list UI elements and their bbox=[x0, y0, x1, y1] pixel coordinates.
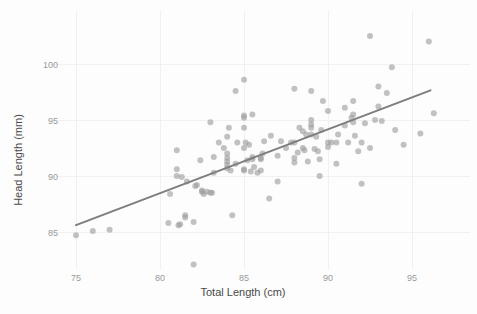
x-tick-label: 80 bbox=[155, 273, 165, 283]
x-axis-title: Total Length (cm) bbox=[201, 286, 286, 298]
data-point bbox=[228, 167, 234, 173]
plot-area: 7580859095 859095100 Total Length (cm) H… bbox=[0, 0, 477, 314]
data-point bbox=[367, 145, 373, 151]
data-point bbox=[179, 174, 185, 180]
data-point bbox=[194, 182, 200, 188]
data-point bbox=[320, 98, 326, 104]
data-point bbox=[315, 148, 321, 154]
data-point bbox=[207, 119, 213, 125]
y-tick-label: 95 bbox=[48, 116, 58, 126]
data-point bbox=[379, 118, 385, 124]
x-axis-tick-labels: 7580859095 bbox=[71, 273, 417, 283]
data-point bbox=[372, 117, 378, 123]
data-point bbox=[367, 33, 373, 39]
data-point bbox=[317, 156, 323, 162]
data-point bbox=[73, 232, 79, 238]
data-point bbox=[295, 149, 301, 155]
data-point bbox=[362, 120, 368, 126]
data-point bbox=[335, 132, 341, 138]
data-point bbox=[359, 139, 365, 145]
data-point bbox=[216, 139, 222, 145]
data-point bbox=[191, 219, 197, 225]
data-point bbox=[229, 212, 235, 218]
data-point bbox=[90, 228, 96, 234]
data-point bbox=[275, 179, 281, 185]
regression-line bbox=[76, 90, 430, 225]
data-point bbox=[258, 167, 264, 173]
data-point bbox=[266, 195, 272, 201]
data-point bbox=[261, 138, 267, 144]
data-point bbox=[342, 105, 348, 111]
data-point bbox=[182, 214, 188, 220]
data-point bbox=[191, 261, 197, 267]
data-point bbox=[221, 145, 227, 151]
y-tick-label: 100 bbox=[43, 60, 58, 70]
data-point bbox=[209, 190, 215, 196]
data-point bbox=[431, 110, 437, 116]
data-point bbox=[167, 191, 173, 197]
data-point bbox=[107, 227, 113, 233]
data-point bbox=[417, 130, 423, 136]
data-point bbox=[174, 147, 180, 153]
data-point bbox=[352, 133, 358, 139]
x-tick-label: 75 bbox=[71, 273, 81, 283]
data-point bbox=[211, 154, 217, 160]
data-point bbox=[317, 173, 323, 179]
x-tick-label: 90 bbox=[323, 273, 333, 283]
x-tick-label: 95 bbox=[407, 273, 417, 283]
data-point bbox=[305, 158, 311, 164]
data-point bbox=[350, 98, 356, 104]
data-point bbox=[258, 156, 264, 162]
data-point bbox=[401, 142, 407, 148]
data-point bbox=[426, 39, 432, 45]
data-point bbox=[384, 90, 390, 96]
scatter-chart: 7580859095 859095100 Total Length (cm) H… bbox=[0, 0, 477, 314]
y-tick-label: 90 bbox=[48, 172, 58, 182]
y-axis-title: Head Length (mm) bbox=[12, 114, 24, 206]
data-point bbox=[308, 88, 314, 94]
data-point bbox=[268, 133, 274, 139]
y-tick-label: 85 bbox=[48, 228, 58, 238]
data-point bbox=[233, 88, 239, 94]
data-point bbox=[249, 111, 255, 117]
data-point bbox=[174, 173, 180, 179]
data-point bbox=[177, 221, 183, 227]
data-point bbox=[226, 125, 232, 131]
data-point bbox=[234, 139, 240, 145]
y-axis-tick-labels: 859095100 bbox=[43, 60, 58, 238]
data-point bbox=[241, 115, 247, 121]
data-point bbox=[375, 83, 381, 89]
data-point bbox=[291, 86, 297, 92]
data-point bbox=[197, 157, 203, 163]
data-point bbox=[241, 125, 247, 131]
data-point bbox=[301, 147, 307, 153]
data-point bbox=[355, 148, 361, 154]
data-point bbox=[291, 160, 297, 166]
data-point bbox=[389, 64, 395, 70]
data-point bbox=[241, 145, 247, 151]
data-point bbox=[359, 181, 365, 187]
data-point bbox=[241, 167, 247, 173]
data-point bbox=[251, 164, 257, 170]
data-point bbox=[165, 220, 171, 226]
data-point bbox=[350, 111, 356, 117]
data-point bbox=[174, 166, 180, 172]
x-tick-label: 85 bbox=[239, 273, 249, 283]
data-point bbox=[333, 161, 339, 167]
data-point bbox=[308, 125, 314, 131]
data-point bbox=[345, 139, 351, 145]
data-point bbox=[333, 139, 339, 145]
data-point bbox=[275, 153, 281, 159]
data-point bbox=[325, 108, 331, 114]
data-point bbox=[278, 138, 284, 144]
data-point bbox=[241, 77, 247, 83]
trend-line bbox=[76, 90, 430, 225]
data-point bbox=[224, 134, 230, 140]
data-point bbox=[392, 127, 398, 133]
data-point bbox=[246, 142, 252, 148]
